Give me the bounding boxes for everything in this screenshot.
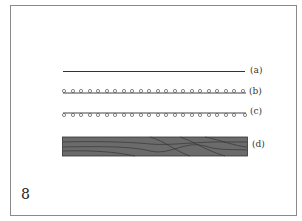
line-b <box>62 89 246 93</box>
bar-d <box>63 137 248 156</box>
line-c <box>62 113 246 117</box>
label-a: (a) <box>250 65 262 75</box>
label-b: (b) <box>249 86 262 96</box>
label-c: (c) <box>250 106 262 116</box>
label-d: (d) <box>252 139 265 149</box>
figure-number: 8 <box>21 186 30 202</box>
